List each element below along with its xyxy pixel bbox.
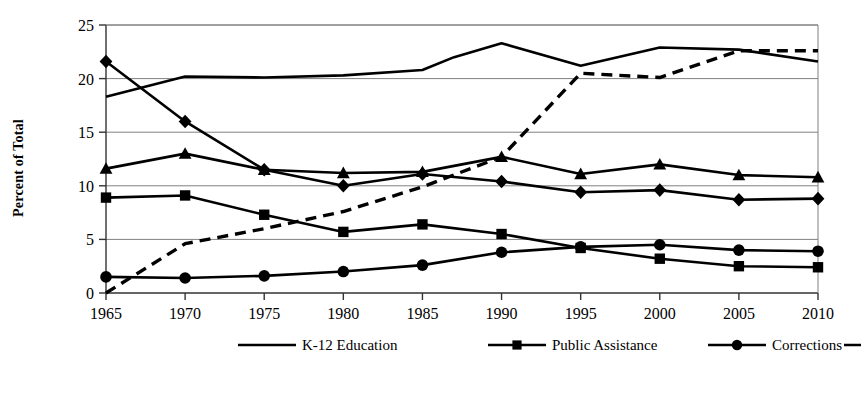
data-point — [259, 210, 269, 220]
data-point — [812, 245, 824, 257]
legend-item[interactable]: K-12 Education — [236, 334, 486, 356]
legend-swatch — [486, 338, 548, 352]
x-tick-label: 1970 — [169, 305, 201, 322]
legend-item[interactable]: Public Assistance — [486, 334, 706, 356]
y-tick-label: 15 — [78, 124, 94, 141]
legend-item[interactable]: Higher Education — [842, 334, 861, 356]
data-point — [813, 262, 823, 272]
legend-label: Corrections — [772, 337, 842, 354]
data-point — [574, 185, 587, 199]
series-public-assistance — [101, 190, 823, 272]
data-point — [338, 266, 350, 278]
legend-swatch — [706, 338, 768, 352]
series-layer — [100, 43, 825, 293]
y-tick-label: 0 — [86, 285, 94, 302]
data-point — [732, 193, 745, 207]
y-tick-label: 25 — [78, 17, 94, 34]
data-point — [179, 147, 192, 159]
data-point — [179, 272, 191, 284]
chart-legend: K-12 EducationPublic AssistanceCorrectio… — [236, 334, 706, 400]
legend-marker — [732, 340, 742, 350]
data-point — [654, 239, 666, 251]
data-point — [337, 179, 350, 193]
series-line — [106, 61, 818, 199]
data-point — [100, 271, 112, 283]
y-tick-label: 5 — [86, 231, 94, 248]
legend-label: K-12 Education — [302, 337, 397, 354]
data-point — [338, 227, 348, 237]
data-point — [575, 241, 587, 253]
data-point — [417, 259, 429, 271]
data-point — [733, 244, 745, 256]
x-tick-label: 1980 — [327, 305, 359, 322]
legend-item[interactable]: Corrections — [706, 334, 842, 356]
x-tick-label: 2005 — [723, 305, 755, 322]
x-tick-label: 2000 — [644, 305, 676, 322]
data-point — [417, 219, 427, 229]
line-chart-figure: Percent of Total 0510152025 196519701975… — [0, 0, 861, 410]
data-point — [655, 253, 665, 263]
data-point — [734, 261, 744, 271]
data-point — [258, 270, 270, 282]
x-tick-label: 1965 — [90, 305, 122, 322]
y-tick-label: 20 — [78, 71, 94, 88]
x-tick-label: 2010 — [802, 305, 834, 322]
series-corrections — [100, 239, 824, 284]
x-axis-ticks: 1965197019751980198519901995200020052010 — [90, 293, 834, 322]
x-tick-label: 1995 — [565, 305, 597, 322]
series-line — [106, 43, 818, 97]
data-point — [416, 167, 429, 181]
data-point — [812, 192, 825, 206]
legend-swatch — [842, 338, 861, 352]
data-point — [180, 190, 190, 200]
series-line — [106, 195, 818, 267]
x-tick-label: 1990 — [486, 305, 518, 322]
data-point — [496, 229, 506, 239]
x-tick-label: 1975 — [248, 305, 280, 322]
gridlines — [106, 25, 818, 239]
y-tick-label: 10 — [78, 178, 94, 195]
legend-marker — [512, 340, 521, 349]
legend-label: Public Assistance — [552, 337, 657, 354]
data-point — [496, 246, 508, 258]
legend-swatch — [236, 338, 298, 352]
x-tick-label: 1985 — [406, 305, 438, 322]
series-line — [106, 245, 818, 278]
data-point — [101, 192, 111, 202]
series-k-12-education — [106, 43, 818, 97]
